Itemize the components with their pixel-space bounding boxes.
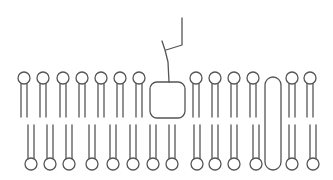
phosphate-head [228, 158, 240, 170]
phosphate-head [76, 72, 88, 84]
phospholipid [228, 125, 240, 170]
phosphate-head [209, 72, 221, 84]
phosphate-head [86, 158, 98, 170]
phospholipid [63, 125, 75, 170]
phosphate-head [250, 158, 262, 170]
phospholipid [307, 125, 319, 170]
phospholipid [127, 125, 139, 170]
phosphate-head [247, 72, 259, 84]
phospholipid [133, 72, 145, 117]
phospholipid [286, 72, 298, 117]
phospholipid [190, 72, 202, 117]
phospholipid [147, 125, 159, 170]
carbohydrate-stem [162, 41, 169, 82]
phospholipid [228, 72, 240, 117]
peripheral-protein-box [150, 82, 185, 118]
outer-leaflet [18, 72, 316, 117]
phosphate-head [107, 158, 119, 170]
phospholipid [95, 72, 107, 117]
phospholipid [209, 125, 221, 170]
phosphate-head [95, 72, 107, 84]
inner-leaflet [25, 125, 319, 170]
phosphate-head [25, 158, 37, 170]
transmembrane-protein [265, 77, 281, 170]
phospholipid [86, 125, 98, 170]
phosphate-head [228, 72, 240, 84]
phospholipid [37, 72, 49, 117]
membrane-diagram [0, 0, 333, 180]
phosphate-head [114, 72, 126, 84]
phosphate-head [127, 158, 139, 170]
phosphate-head [190, 72, 202, 84]
phosphate-head [286, 158, 298, 170]
phosphate-head [18, 72, 30, 84]
phospholipid [166, 125, 178, 170]
phospholipid [209, 72, 221, 117]
phosphate-head [57, 72, 69, 84]
phospholipid [250, 125, 262, 170]
phospholipid [57, 72, 69, 117]
phosphate-head [307, 158, 319, 170]
phosphate-head [166, 158, 178, 170]
phosphate-head [44, 158, 56, 170]
phospholipid [114, 72, 126, 117]
phospholipid [18, 72, 30, 117]
phosphate-head [304, 72, 316, 84]
phospholipid [247, 72, 259, 117]
phospholipid [44, 125, 56, 170]
phospholipid [191, 125, 203, 170]
phosphate-head [133, 72, 145, 84]
phospholipid [286, 125, 298, 170]
phosphate-head [37, 72, 49, 84]
phosphate-head [191, 158, 203, 170]
carbohydrate-branch [166, 18, 182, 50]
phosphate-head [63, 158, 75, 170]
phosphate-head [147, 158, 159, 170]
lipid-bilayer-figure [0, 0, 333, 180]
glycoprotein [150, 18, 185, 118]
phospholipid [107, 125, 119, 170]
phospholipid [25, 125, 37, 170]
phospholipid [76, 72, 88, 117]
phosphate-head [209, 158, 221, 170]
phosphate-head [286, 72, 298, 84]
phospholipid [304, 72, 316, 117]
